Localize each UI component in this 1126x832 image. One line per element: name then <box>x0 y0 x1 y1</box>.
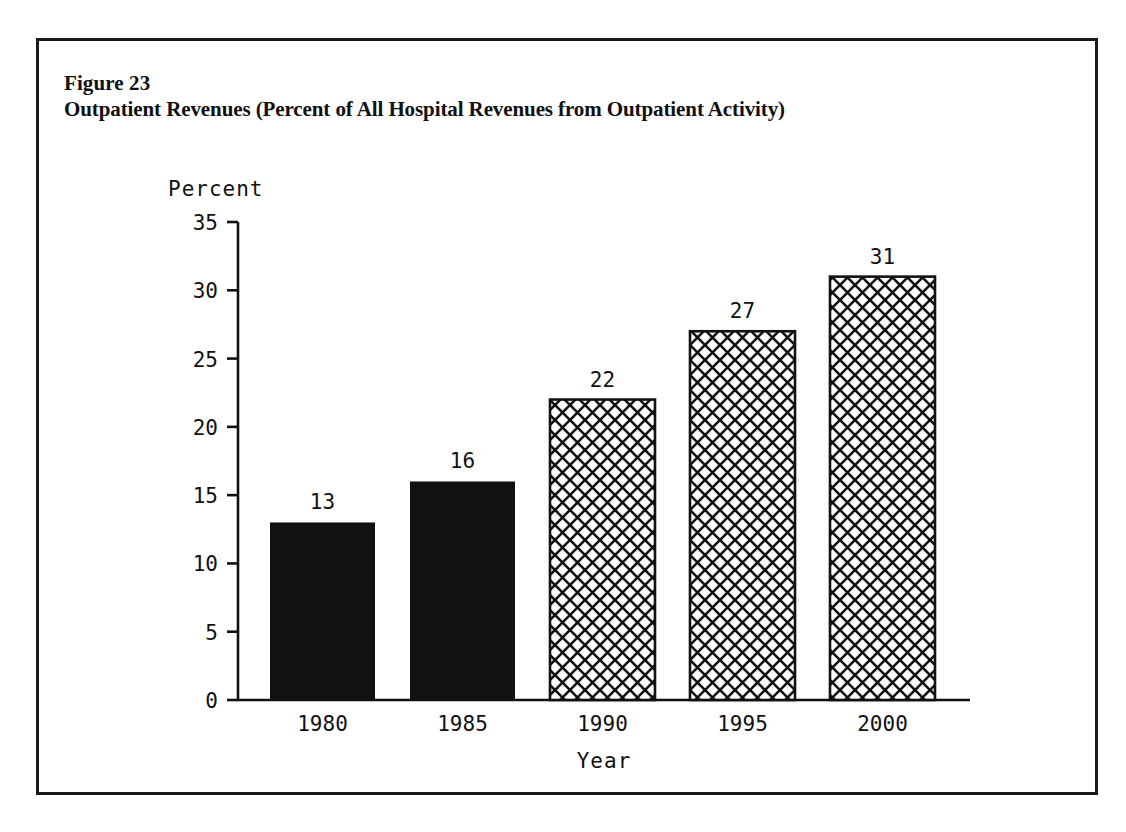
figure-number-label: Figure 23 <box>64 70 1044 96</box>
figure-frame <box>36 38 1098 795</box>
figure-title-block: Figure 23 Outpatient Revenues (Percent o… <box>64 70 1044 123</box>
figure-title: Outpatient Revenues (Percent of All Hosp… <box>64 96 1044 123</box>
